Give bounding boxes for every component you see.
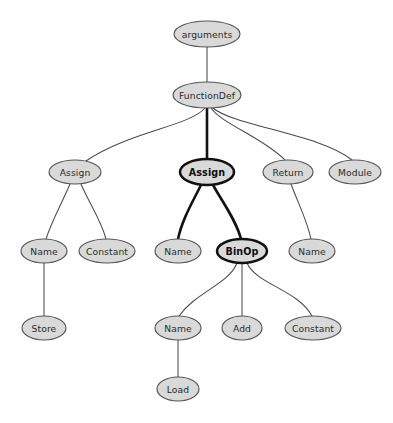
graph-node-module[interactable]: Module — [329, 160, 381, 184]
node-label-load: Load — [167, 384, 189, 395]
graph-edge-assign_m-to-binop — [213, 185, 241, 239]
graph-node-assign_l[interactable]: Assign — [49, 160, 101, 184]
graph-edge-binop-to-constant_2 — [247, 263, 312, 316]
node-label-functiondef: FunctionDef — [179, 90, 236, 101]
graph-node-store[interactable]: Store — [22, 316, 66, 340]
node-label-module: Module — [338, 167, 372, 178]
node-label-return: Return — [272, 167, 303, 178]
graph-edge-return-to-name_3 — [291, 184, 311, 239]
graph-node-load[interactable]: Load — [157, 377, 199, 401]
graph-edge-assign_l-to-constant_1 — [81, 184, 106, 239]
graph-node-return[interactable]: Return — [263, 160, 313, 184]
graph-node-name_3[interactable]: Name — [289, 239, 335, 263]
node-label-name_2: Name — [164, 246, 192, 257]
node-label-assign_l: Assign — [60, 167, 91, 178]
graph-node-name_1[interactable]: Name — [21, 239, 67, 263]
graph-edge-assign_l-to-name_1 — [46, 184, 70, 239]
nodes-layer: argumentsFunctionDefAssignAssignReturnMo… — [21, 21, 381, 401]
graph-edge-assign_m-to-name_2 — [178, 185, 201, 239]
graph-edge-functiondef-to-module — [213, 108, 352, 160]
graph-node-binop[interactable]: BinOp — [217, 239, 267, 263]
node-label-name_3: Name — [298, 246, 326, 257]
graph-edge-binop-to-name_4 — [179, 263, 237, 316]
graph-node-assign_m[interactable]: Assign — [180, 159, 234, 185]
node-label-constant_2: Constant — [292, 323, 334, 334]
graph-node-constant_2[interactable]: Constant — [285, 316, 341, 340]
ast-graph-canvas: argumentsFunctionDefAssignAssignReturnMo… — [0, 0, 393, 423]
graph-node-constant_1[interactable]: Constant — [79, 239, 135, 263]
node-label-store: Store — [32, 323, 57, 334]
node-label-name_1: Name — [30, 246, 58, 257]
graph-node-name_2[interactable]: Name — [155, 239, 201, 263]
graph-node-name_4[interactable]: Name — [155, 316, 201, 340]
ast-graph-svg: argumentsFunctionDefAssignAssignReturnMo… — [0, 0, 393, 423]
graph-edge-functiondef-to-return — [211, 108, 285, 160]
graph-edge-functiondef-to-assign_l — [86, 108, 205, 161]
node-label-name_4: Name — [164, 323, 192, 334]
graph-node-arguments[interactable]: arguments — [174, 21, 240, 47]
node-label-binop: BinOp — [226, 246, 259, 257]
node-label-assign_m: Assign — [189, 167, 226, 178]
graph-node-functiondef[interactable]: FunctionDef — [173, 82, 241, 108]
node-label-constant_1: Constant — [86, 246, 128, 257]
node-label-add: Add — [233, 323, 251, 334]
node-label-arguments: arguments — [182, 29, 233, 40]
graph-node-add[interactable]: Add — [222, 316, 262, 340]
